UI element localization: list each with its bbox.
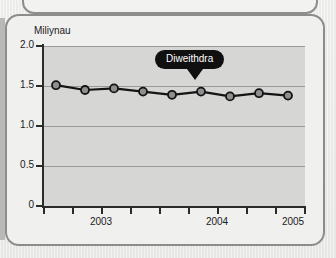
data-point-6 <box>226 92 234 100</box>
data-point-4 <box>168 91 176 99</box>
unemployment-line-chart: Miliynau 2.0 1.5 1.0 0.5 0 2003 2004 200… <box>0 0 336 258</box>
data-point-7 <box>255 89 263 97</box>
data-point-5 <box>197 88 205 96</box>
data-point-1 <box>81 86 89 94</box>
data-point-0 <box>52 81 60 89</box>
data-point-2 <box>110 84 118 92</box>
data-point-8 <box>284 92 292 100</box>
data-point-3 <box>139 88 147 96</box>
data-series-diweithdra <box>0 0 336 258</box>
callout-diweithdra: Diweithdra <box>155 50 224 69</box>
callout-tail-icon <box>187 69 203 80</box>
